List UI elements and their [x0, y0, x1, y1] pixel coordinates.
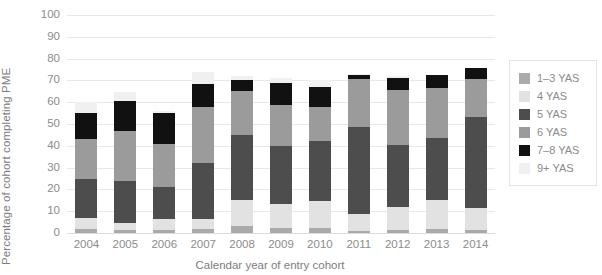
legend-swatch-icon: [519, 163, 530, 174]
bar-segment[interactable]: [270, 146, 292, 204]
bar-segment[interactable]: [309, 107, 331, 142]
bar-segment[interactable]: [114, 101, 136, 130]
bar-segment[interactable]: [465, 68, 487, 79]
bar-segment[interactable]: [231, 91, 253, 135]
bar-segment[interactable]: [153, 144, 175, 188]
bar-segment[interactable]: [192, 229, 214, 233]
bar-segment[interactable]: [114, 131, 136, 181]
bar-segment[interactable]: [387, 78, 409, 90]
bar-segment[interactable]: [309, 87, 331, 107]
bar-2005[interactable]: [114, 15, 136, 233]
legend-item-label: 7–8 YAS: [537, 144, 579, 156]
x-axis-tick-label: 2014: [453, 238, 499, 250]
bar-segment[interactable]: [231, 76, 253, 80]
bar-segment[interactable]: [348, 79, 370, 127]
bar-segment[interactable]: [192, 107, 214, 164]
y-axis-tick-label: 50: [22, 118, 60, 130]
bar-segment[interactable]: [153, 230, 175, 233]
legend-item[interactable]: 4 YAS: [519, 88, 588, 104]
legend: 1–3 YAS4 YAS5 YAS6 YAS7–8 YAS9+ YAS: [509, 60, 597, 186]
y-axis-tick-label: 90: [22, 31, 60, 43]
bar-segment[interactable]: [153, 187, 175, 219]
legend-item[interactable]: 5 YAS: [519, 106, 588, 122]
bar-segment[interactable]: [426, 88, 448, 138]
bar-segment[interactable]: [387, 207, 409, 230]
legend-item[interactable]: 9+ YAS: [519, 160, 588, 176]
bar-segment[interactable]: [270, 105, 292, 145]
bar-2014[interactable]: [465, 15, 487, 233]
bar-segment[interactable]: [309, 228, 331, 233]
bar-segment[interactable]: [348, 214, 370, 230]
bar-2007[interactable]: [192, 15, 214, 233]
bar-segment[interactable]: [426, 138, 448, 200]
bar-segment[interactable]: [348, 74, 370, 75]
bar-2011[interactable]: [348, 15, 370, 233]
bar-segment[interactable]: [270, 204, 292, 228]
stacked-bar-chart: Percentage of cohort completing PME Cale…: [0, 0, 602, 275]
y-axis-title: Percentage of cohort completing PME: [0, 15, 20, 265]
bar-segment[interactable]: [75, 218, 97, 229]
bar-2008[interactable]: [231, 15, 253, 233]
legend-item-label: 5 YAS: [537, 108, 567, 120]
bar-segment[interactable]: [387, 76, 409, 78]
bar-segment[interactable]: [114, 92, 136, 101]
bar-segment[interactable]: [387, 90, 409, 145]
bar-segment[interactable]: [348, 75, 370, 79]
legend-item[interactable]: 1–3 YAS: [519, 70, 588, 86]
bar-segment[interactable]: [426, 229, 448, 233]
legend-item[interactable]: 6 YAS: [519, 124, 588, 140]
bar-segment[interactable]: [75, 229, 97, 233]
bar-2006[interactable]: [153, 15, 175, 233]
bar-segment[interactable]: [153, 113, 175, 144]
legend-swatch-icon: [519, 73, 530, 84]
bar-2013[interactable]: [426, 15, 448, 233]
plot-area: [67, 15, 495, 233]
bar-segment[interactable]: [231, 135, 253, 200]
bar-segment[interactable]: [75, 139, 97, 178]
bar-segment[interactable]: [465, 208, 487, 230]
bar-segment[interactable]: [231, 200, 253, 226]
legend-swatch-icon: [519, 109, 530, 120]
bar-segment[interactable]: [192, 163, 214, 219]
bar-segment[interactable]: [309, 201, 331, 227]
bar-segment[interactable]: [348, 231, 370, 233]
bar-segment[interactable]: [231, 226, 253, 233]
y-axis-tick-label: 30: [22, 162, 60, 174]
bar-segment[interactable]: [192, 84, 214, 107]
bar-segment[interactable]: [75, 179, 97, 218]
bar-segment[interactable]: [348, 127, 370, 214]
legend-item-label: 1–3 YAS: [537, 72, 579, 84]
bar-segment[interactable]: [426, 75, 448, 88]
bar-segment[interactable]: [465, 117, 487, 207]
y-axis-tick-label: 100: [22, 9, 60, 21]
bar-2009[interactable]: [270, 15, 292, 233]
bar-segment[interactable]: [153, 111, 175, 113]
bar-segment[interactable]: [426, 200, 448, 228]
bar-segment[interactable]: [114, 181, 136, 224]
legend-swatch-icon: [519, 127, 530, 138]
bar-segment[interactable]: [153, 219, 175, 230]
bar-segment[interactable]: [270, 78, 292, 82]
x-axis-title: Calendar year of entry cohort: [40, 259, 500, 271]
bar-segment[interactable]: [75, 113, 97, 139]
bar-segment[interactable]: [309, 80, 331, 87]
bar-segment[interactable]: [114, 230, 136, 233]
bar-segment[interactable]: [465, 230, 487, 233]
bar-segment[interactable]: [192, 219, 214, 229]
y-axis-tick-label: 0: [22, 227, 60, 239]
bar-segment[interactable]: [270, 83, 292, 106]
bar-segment[interactable]: [309, 141, 331, 201]
bar-2012[interactable]: [387, 15, 409, 233]
y-axis-tick-label: 40: [22, 140, 60, 152]
bar-2004[interactable]: [75, 15, 97, 233]
bar-segment[interactable]: [387, 230, 409, 233]
bar-segment[interactable]: [270, 228, 292, 233]
bar-segment[interactable]: [75, 102, 97, 113]
bar-segment[interactable]: [387, 145, 409, 207]
legend-item[interactable]: 7–8 YAS: [519, 142, 588, 158]
bar-segment[interactable]: [231, 80, 253, 91]
bar-segment[interactable]: [114, 223, 136, 230]
bar-segment[interactable]: [192, 72, 214, 84]
bar-segment[interactable]: [465, 79, 487, 117]
bar-2010[interactable]: [309, 15, 331, 233]
